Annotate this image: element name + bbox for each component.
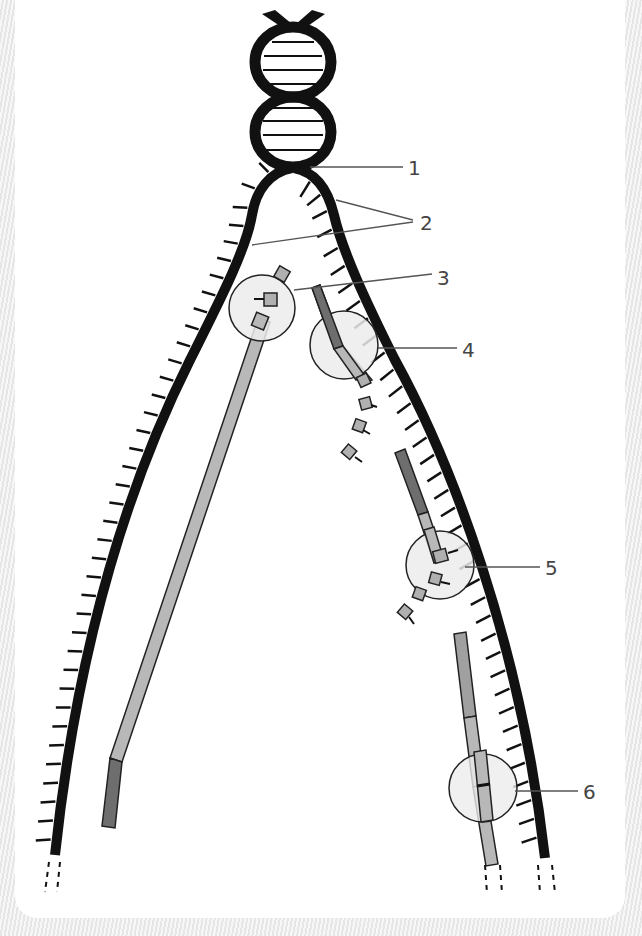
left-parent-strand [55, 168, 292, 855]
enzyme-circle-5 [397, 527, 474, 624]
label-6: 6 [583, 780, 596, 804]
enzyme-circle-6 [449, 750, 517, 822]
label-3: 3 [437, 266, 450, 290]
label-4: 4 [462, 338, 475, 362]
label-2: 2 [420, 211, 433, 235]
strand-continuation [45, 862, 555, 893]
label-5: 5 [545, 556, 558, 580]
free-nucleotides [341, 397, 377, 462]
double-helix [255, 10, 331, 167]
replication-fork-diagram: 1 2 3 4 5 6 [0, 0, 642, 936]
okazaki-fragment-3 [454, 632, 498, 866]
label-1: 1 [408, 156, 421, 180]
enzyme-circle-left [229, 266, 295, 341]
leading-strand [102, 318, 270, 828]
